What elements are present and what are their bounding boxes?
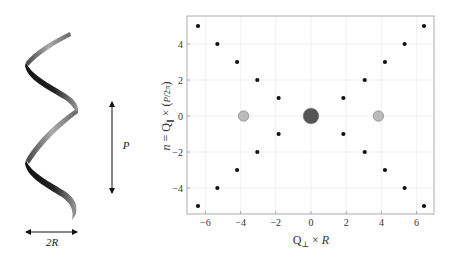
- data-point: [422, 204, 426, 208]
- data-point: [303, 108, 319, 124]
- y-axis-label: n = Q∥ × (P/2π): [159, 82, 175, 151]
- data-point: [403, 42, 407, 46]
- data-point: [403, 186, 407, 190]
- data-point: [255, 150, 259, 154]
- data-point: [215, 186, 219, 190]
- data-point: [341, 96, 345, 100]
- helix-panel: 2R P: [25, 32, 130, 248]
- data-point: [277, 132, 281, 136]
- figure: 2R P −6−4−20246 −4−2024 Q⊥ × R n = Q∥ × …: [0, 0, 461, 258]
- data-point: [373, 111, 383, 121]
- scatter-plot: −6−4−20246 −4−2024 Q⊥ × R n = Q∥ × (P/2π…: [159, 16, 434, 249]
- helix-ribbon: [25, 32, 78, 220]
- data-point: [341, 132, 345, 136]
- helix-front-strand-2: [25, 160, 77, 220]
- x-tick-label: 0: [309, 217, 314, 228]
- x-axis-label: Q⊥ × R: [293, 233, 330, 249]
- y-tick-label: −2: [172, 147, 183, 158]
- data-point: [383, 60, 387, 64]
- data-point: [255, 78, 259, 82]
- y-tick-label: −4: [172, 183, 183, 194]
- x-tick-label: −4: [235, 217, 246, 228]
- data-point: [277, 96, 281, 100]
- data-point: [235, 168, 239, 172]
- data-point: [238, 111, 248, 121]
- x-tick-label: 4: [379, 217, 384, 228]
- radius-label: 2R: [46, 236, 59, 248]
- y-tick-label: 2: [178, 75, 183, 86]
- helix-back-strand-2: [26, 108, 78, 164]
- data-point: [196, 24, 200, 28]
- data-point: [363, 78, 367, 82]
- x-tick-label: 6: [414, 217, 419, 228]
- data-point: [383, 168, 387, 172]
- pitch-label: P: [122, 139, 130, 151]
- x-tick-label: −6: [200, 217, 211, 228]
- helix-front-strand-1: [25, 62, 78, 112]
- data-point: [422, 24, 426, 28]
- y-tick-label: 0: [178, 111, 183, 122]
- data-point: [363, 150, 367, 154]
- data-point: [235, 60, 239, 64]
- x-tick-label: 2: [344, 217, 349, 228]
- y-tick-label: 4: [178, 39, 183, 50]
- x-axis-ticks: −6−4−20246: [200, 211, 419, 228]
- x-tick-label: −2: [270, 217, 281, 228]
- helix-back-strand-1: [26, 32, 71, 66]
- data-point: [196, 204, 200, 208]
- data-point: [215, 42, 219, 46]
